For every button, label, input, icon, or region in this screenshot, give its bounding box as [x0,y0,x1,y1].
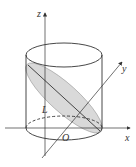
cylinder-diagram: z y x O L [0,0,136,167]
line-L-label: L [41,104,48,115]
cylinder-top-ellipse [26,43,102,67]
z-axis-label: z [36,8,41,19]
origin-label: O [62,132,69,143]
line-L [28,65,100,131]
x-axis-label: x [124,132,130,143]
y-axis-label: y [121,63,127,74]
